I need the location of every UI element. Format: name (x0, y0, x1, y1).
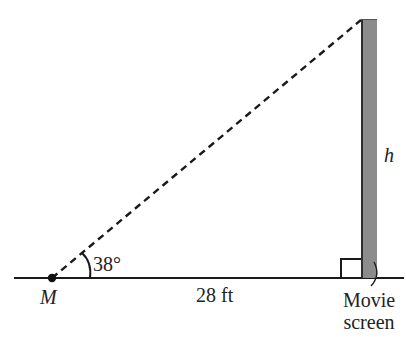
angle-arc (82, 253, 90, 278)
point-m-dot (48, 274, 56, 282)
height-label: h (384, 144, 394, 166)
point-m-label: M (39, 286, 58, 308)
movie-screen-bar (362, 19, 377, 278)
movie-screen-label-line1: Movie (343, 289, 395, 311)
triangle-diagram: 38° M 28 ft h Movie screen (0, 0, 406, 338)
line-of-sight-dashed (52, 20, 361, 278)
right-angle-marker (341, 259, 361, 278)
angle-label: 38° (93, 253, 121, 275)
movie-screen-label-line2: screen (343, 311, 394, 333)
distance-label: 28 ft (196, 284, 234, 306)
